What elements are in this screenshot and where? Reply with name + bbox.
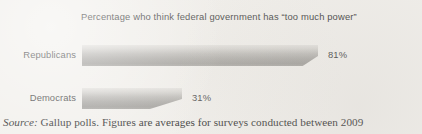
bar-category-label-republicans: Republicans <box>23 49 76 60</box>
source-note: Source: Gallup polls. Figures are averag… <box>3 116 363 128</box>
bar-category-label-democrats: Democrats <box>30 92 76 103</box>
bar-value-label-democrats: 31% <box>192 92 211 103</box>
bar-republicans <box>82 45 318 66</box>
bar-fill-democrats <box>82 88 182 109</box>
source-note-text: Gallup polls. Figures are averages for s… <box>38 116 364 128</box>
bar-fill-republicans <box>82 45 318 66</box>
bar-value-label-republicans: 81% <box>328 49 347 60</box>
bar-row: Republicans 81% <box>0 43 422 69</box>
bar-row: Democrats 31% <box>0 86 422 112</box>
chart-title: Percentage who think federal government … <box>81 11 357 22</box>
bar-chart-figure: Percentage who think federal government … <box>0 0 422 134</box>
bar-democrats <box>82 88 182 109</box>
source-note-lead: Source: <box>3 116 38 128</box>
